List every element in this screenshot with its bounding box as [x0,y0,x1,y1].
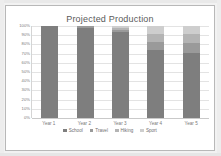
screenshot-root: Projected Production 100%90%80%70%60%50%… [0,0,221,156]
y-axis-tick-label: 30% [8,88,30,92]
legend-item[interactable]: Sport [140,128,157,133]
y-axis-tick-label: 0% [8,116,30,120]
y-axis-tick-label: 60% [8,61,30,65]
page-edge-right [217,0,221,156]
bar-segment[interactable] [183,26,200,34]
bar-segment[interactable] [147,50,164,118]
bar-column[interactable] [112,26,129,118]
y-axis-tick-label: 20% [8,97,30,101]
plot-area [31,26,209,118]
legend-swatch-icon [140,129,144,133]
bar-column[interactable] [183,26,200,118]
legend-swatch-icon [63,129,67,133]
chart-legend[interactable]: SchoolTravelHikingSport [6,128,214,133]
bar-column[interactable] [41,26,58,118]
bar-segment[interactable] [147,42,164,50]
page-edge-bottom [0,153,221,156]
bar-column[interactable] [77,26,94,118]
legend-label: Travel [95,128,108,133]
y-axis-tick-label: 50% [8,70,30,74]
legend-swatch-icon [90,129,94,133]
bar-segment[interactable] [112,32,129,118]
page-edge-left [0,0,4,156]
y-axis-tick-label: 40% [8,79,30,83]
bar-segment[interactable] [77,28,94,118]
y-axis-tick-label: 10% [8,107,30,111]
legend-item[interactable]: Travel [90,128,108,133]
chart-title: Projected Production [6,14,214,24]
y-axis-tick-label: 80% [8,42,30,46]
plot-wrapper: 100%90%80%70%60%50%40%30%20%10%0% Year 1… [6,26,214,124]
bar-segment[interactable] [147,26,164,34]
legend-label: Sport [146,128,157,133]
bar-column[interactable] [147,26,164,118]
bar-segment[interactable] [147,34,164,41]
legend-label: Hiking [121,128,134,133]
y-axis-tick-label: 90% [8,33,30,37]
y-axis-tick-label: 70% [8,51,30,55]
bar-segment[interactable] [183,34,200,42]
legend-label: School [69,128,83,133]
legend-item[interactable]: Hiking [115,128,133,133]
chart-container[interactable]: Projected Production 100%90%80%70%60%50%… [5,5,215,151]
page-edge-top [0,0,221,3]
legend-swatch-icon [115,129,119,133]
y-axis: 100%90%80%70%60%50%40%30%20%10%0% [8,26,30,118]
bar-group [32,26,209,118]
legend-item[interactable]: School [63,128,83,133]
y-axis-tick-label: 100% [8,24,30,28]
bar-segment[interactable] [41,26,58,118]
bar-segment[interactable] [183,53,200,118]
bar-segment[interactable] [183,43,200,53]
